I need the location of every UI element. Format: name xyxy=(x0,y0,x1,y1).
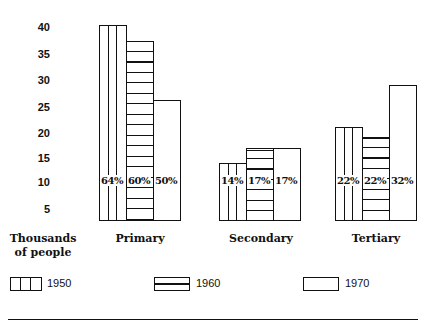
category-label-secondary: Secondary xyxy=(211,232,311,245)
y-tick-25: 25 xyxy=(24,101,50,113)
y-tick-10: 10 xyxy=(24,176,50,188)
pct-primary-1970: 50% xyxy=(154,175,178,186)
pct-secondary-1960: 17% xyxy=(247,175,271,186)
pct-primary-1960: 60% xyxy=(127,175,151,186)
bar-tertiary-1950 xyxy=(335,127,363,221)
y-axis-title: Thousands of people xyxy=(8,232,78,260)
pct-secondary-1970: 17% xyxy=(274,175,298,186)
y-tick-5: 5 xyxy=(24,203,50,215)
legend-swatch-1950 xyxy=(10,277,42,291)
pct-tertiary-1950: 22% xyxy=(336,175,360,186)
pct-secondary-1950: 14% xyxy=(220,175,244,186)
y-axis-title-line1: Thousands xyxy=(8,232,78,246)
y-tick-35: 35 xyxy=(24,48,50,60)
y-tick-30: 30 xyxy=(24,74,50,86)
legend-label-1970: 1970 xyxy=(345,277,369,289)
bottom-rule xyxy=(8,319,418,320)
bar-primary-1970 xyxy=(153,100,181,221)
legend-label-1950: 1950 xyxy=(47,277,71,289)
legend-swatch-1960 xyxy=(154,277,190,291)
bar-primary-1960 xyxy=(126,41,154,221)
category-label-tertiary: Tertiary xyxy=(326,232,426,245)
category-label-primary: Primary xyxy=(90,232,190,245)
pct-primary-1950: 64% xyxy=(100,175,124,186)
bar-tertiary-1970 xyxy=(389,85,417,221)
y-tick-40: 40 xyxy=(24,21,50,33)
y-tick-15: 15 xyxy=(24,152,50,164)
legend-swatch-1970 xyxy=(303,277,339,291)
pct-tertiary-1970: 32% xyxy=(390,175,414,186)
bar-secondary-1950 xyxy=(219,163,247,221)
bar-primary-1950 xyxy=(99,25,127,221)
legend-label-1960: 1960 xyxy=(196,277,220,289)
pct-tertiary-1960: 22% xyxy=(363,175,387,186)
y-axis-title-line2: of people xyxy=(8,246,78,260)
y-tick-20: 20 xyxy=(24,127,50,139)
